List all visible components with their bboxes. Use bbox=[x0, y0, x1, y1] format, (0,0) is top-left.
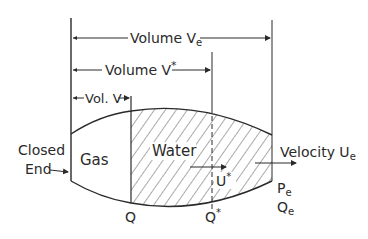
q-label: Q bbox=[125, 209, 136, 225]
volume-vstar-label: Volume V* bbox=[105, 59, 177, 78]
pe-label: Pe bbox=[277, 180, 292, 198]
bubble-diagram: Volume Ve Volume V* Vol. V Closed End Ga… bbox=[0, 0, 368, 239]
water-label: Water bbox=[152, 142, 197, 160]
vol-v-label: Vol. V bbox=[85, 91, 122, 106]
volume-ve-label: Volume Ve bbox=[130, 30, 202, 48]
end-label: End bbox=[25, 161, 52, 177]
gas-label: Gas bbox=[80, 151, 109, 169]
qe-label: Qe bbox=[277, 199, 294, 217]
closed-end-arrow bbox=[50, 170, 68, 172]
closed-label: Closed bbox=[18, 142, 65, 158]
velocity-label: Velocity Ue bbox=[280, 144, 356, 162]
qstar-label: Q* bbox=[205, 207, 221, 225]
